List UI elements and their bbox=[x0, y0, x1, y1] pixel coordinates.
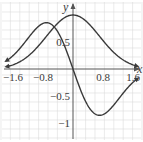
y-tick-label: −1 bbox=[58, 117, 70, 129]
axes bbox=[4, 3, 140, 139]
chart: −1.6−0.80.81.60.5−0.5−1xy bbox=[0, 0, 143, 142]
y-tick-label: 0.5 bbox=[56, 36, 70, 48]
y-axis-label: y bbox=[62, 0, 69, 14]
x-tick-label: −0.8 bbox=[33, 71, 53, 83]
y-axis-arrow-icon bbox=[71, 3, 76, 9]
x-axis-label: x bbox=[136, 62, 143, 76]
x-tick-label: 0.8 bbox=[96, 71, 110, 83]
y-tick-label: −0.5 bbox=[50, 90, 70, 102]
x-tick-label: −1.6 bbox=[3, 71, 23, 83]
